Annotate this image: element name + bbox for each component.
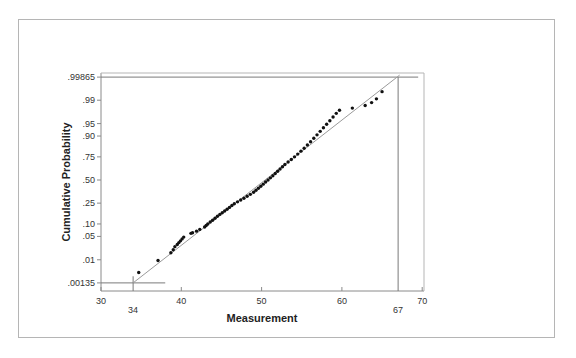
fitted-normal-line: [133, 75, 399, 283]
x-tick-label: 70: [417, 296, 427, 306]
data-point: [290, 158, 293, 161]
data-point: [325, 123, 328, 126]
data-point: [335, 112, 338, 115]
data-point: [172, 248, 175, 251]
x-tick-label: 40: [176, 296, 186, 306]
data-point: [293, 155, 296, 158]
data-point: [286, 160, 289, 163]
data-point: [375, 97, 378, 100]
y-tick-label: .99: [82, 95, 95, 105]
data-point: [331, 115, 334, 118]
data-point: [236, 200, 239, 203]
data-point: [296, 152, 299, 155]
data-point: [363, 104, 366, 107]
data-point: [245, 195, 248, 198]
y-axis-title: Cumulative Probability: [60, 122, 72, 242]
data-point: [191, 231, 194, 234]
x-guide-label: 34: [128, 305, 138, 315]
data-point: [233, 202, 236, 205]
x-axis-title: Measurement: [227, 312, 298, 324]
y-tick-label: .90: [82, 131, 95, 141]
data-point: [322, 126, 325, 129]
y-tick-label: .75: [82, 152, 95, 162]
x-tick-label: 50: [257, 296, 267, 306]
data-point: [137, 271, 140, 274]
y-tick-label: .01: [82, 255, 95, 265]
data-point: [338, 109, 341, 112]
y-tick-label: .99865: [67, 72, 95, 82]
data-point: [198, 228, 201, 231]
x-tick-label: 60: [337, 296, 347, 306]
data-point: [283, 163, 286, 166]
data-point: [319, 130, 322, 133]
data-point: [156, 259, 159, 262]
y-tick-label: .25: [82, 198, 95, 208]
y-tick-label: .05: [82, 231, 95, 241]
data-point: [351, 106, 354, 109]
axes: [97, 73, 424, 291]
y-tick-label: .00135: [67, 278, 95, 288]
data-point: [239, 198, 242, 201]
y-tick-label: .50: [82, 175, 95, 185]
data-points: [137, 90, 384, 274]
x-guide-label: 67: [393, 305, 403, 315]
normal-probability-plot: 30405060703467.99865.99.95.90.75.50.25.1…: [0, 0, 576, 358]
data-point: [328, 119, 331, 122]
y-tick-label: .10: [82, 219, 95, 229]
data-point: [370, 101, 373, 104]
data-point: [299, 149, 302, 152]
data-point: [309, 140, 312, 143]
data-point: [380, 90, 383, 93]
data-point: [182, 235, 185, 238]
data-point: [306, 143, 309, 146]
data-point: [249, 193, 252, 196]
y-tick-label: .95: [82, 119, 95, 129]
data-point: [312, 137, 315, 140]
data-point: [315, 133, 318, 136]
data-point: [302, 147, 305, 150]
data-point: [169, 251, 172, 254]
reference-line: [133, 75, 399, 283]
data-point: [195, 229, 198, 232]
data-point: [242, 196, 245, 199]
x-tick-label: 30: [96, 296, 106, 306]
